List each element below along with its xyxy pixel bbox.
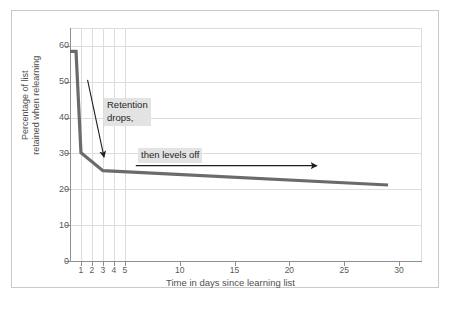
x-axis-tick-label: 15 — [223, 266, 247, 275]
annotation-retention-drops: Retention drops, — [104, 98, 151, 126]
y-axis-title: Percentage of list retained when relearn… — [20, 10, 43, 200]
x-axis-tick-label: 5 — [113, 266, 137, 275]
x-axis-tick-label: 20 — [277, 266, 301, 275]
y-axis-title-line2: retained when relearning — [31, 56, 41, 155]
y-axis-tick-label: 60 — [45, 41, 69, 50]
y-axis-tick-label: 20 — [45, 185, 69, 194]
x-axis-title: Time in days since learning list — [0, 277, 461, 288]
x-axis-tick-label: 10 — [168, 266, 192, 275]
x-axis-tick-label: 30 — [387, 266, 411, 275]
y-axis-tick-label: 10 — [45, 221, 69, 230]
annotation-then-levels-off: then levels off — [138, 148, 202, 163]
y-axis-tick-label: 40 — [45, 113, 69, 122]
retention-drops-arrow — [88, 80, 104, 157]
x-axis-tick-label: 25 — [332, 266, 356, 275]
y-axis-tick-label: 0 — [45, 257, 69, 266]
y-axis-tick-label: 50 — [45, 77, 69, 86]
y-axis-tick-label: 30 — [45, 149, 69, 158]
y-axis-title-line1: Percentage of list — [20, 70, 30, 140]
